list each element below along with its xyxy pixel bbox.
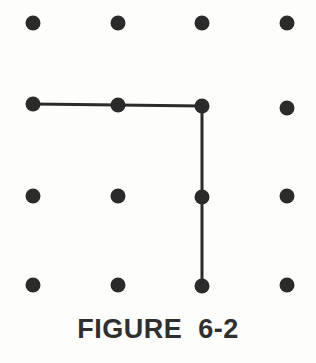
connected-polyline xyxy=(33,104,202,286)
connected-path-overlay xyxy=(0,0,316,363)
figure-container: FIGURE 6-2 xyxy=(0,0,316,363)
figure-caption: FIGURE 6-2 xyxy=(0,314,316,345)
